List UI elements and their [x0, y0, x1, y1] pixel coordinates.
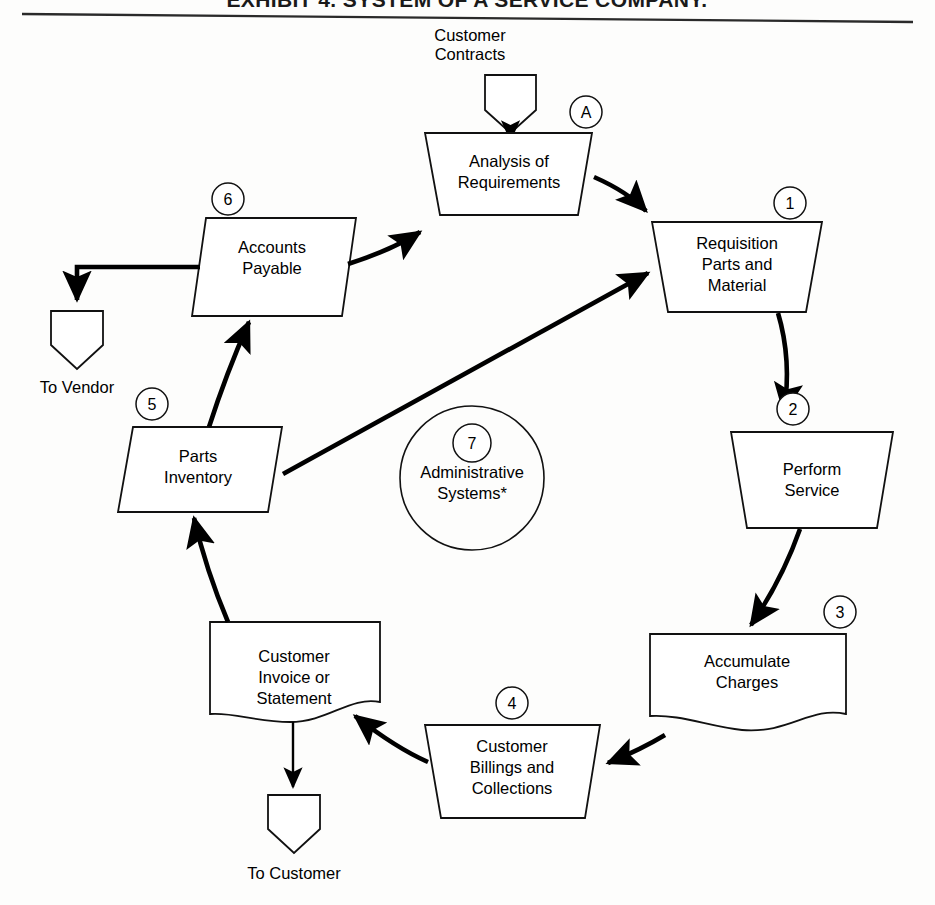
accumulate-charges-label-line1: Accumulate [704, 652, 790, 670]
to-vendor-pentagon-shape [51, 311, 103, 369]
to-vendor-label: To Vendor [40, 378, 115, 396]
edge-parts-inventory-to-accounts-payable [209, 322, 249, 427]
node-accumulate-charges[interactable]: Accumulate Charges [650, 634, 846, 730]
node-parts-inventory[interactable]: Parts Inventory [118, 427, 282, 512]
edge-accumulate-charges-to-billings [608, 735, 665, 763]
node-perform-service[interactable]: Perform Service [731, 432, 893, 528]
edge-perform-service-to-accumulate-charges [751, 529, 800, 625]
administrative-systems-label-line1: Administrative [420, 463, 524, 481]
to-customer-label: To Customer [247, 864, 341, 882]
badge-accounts-payable: 6 [212, 183, 244, 215]
accounts-payable-label-line2: Payable [242, 259, 302, 277]
output-to-customer: To Customer [247, 795, 341, 882]
badge-analysis-of-requirements: A [570, 96, 602, 128]
analysis-of-requirements-label-line2: Requirements [458, 173, 561, 191]
badge-label-5: 5 [148, 396, 157, 413]
page-title-text: EXHIBIT 4. SYSTEM OF A SERVICE COMPANY. [226, 0, 707, 11]
badge-label-a: A [581, 104, 592, 121]
output-to-vendor: To Vendor [40, 311, 115, 396]
administrative-systems-label-line2: Systems* [437, 484, 507, 502]
badge-customer-billings-and-collections: 4 [496, 687, 528, 719]
badge-label-3: 3 [836, 604, 845, 621]
badge-accumulate-charges: 3 [824, 596, 856, 628]
analysis-of-requirements-label-line1: Analysis of [469, 152, 549, 170]
service-company-flow-diagram: EXHIBIT 4. SYSTEM OF A SERVICE COMPANY. … [0, 0, 935, 905]
badge-label-6: 6 [224, 191, 233, 208]
edge-invoice-to-parts-inventory [194, 518, 228, 622]
diagram-page: EXHIBIT 4. SYSTEM OF A SERVICE COMPANY. … [0, 0, 935, 905]
invoice-label-line2: Invoice or [258, 668, 330, 686]
node-accounts-payable[interactable]: Accounts Payable [192, 218, 356, 316]
input-customer-contracts: Customer Contracts [434, 26, 536, 133]
node-analysis-of-requirements[interactable]: Analysis of Requirements [425, 133, 592, 215]
perform-service-label-line2: Service [784, 481, 839, 499]
customer-contracts-label-line2: Contracts [435, 45, 506, 63]
title-rule [22, 14, 913, 22]
perform-service-label-line1: Perform [783, 460, 842, 478]
page-title: EXHIBIT 4. SYSTEM OF A SERVICE COMPANY. [226, 0, 707, 11]
parts-inventory-label-line2: Inventory [164, 468, 233, 486]
badge-label-1: 1 [786, 195, 795, 212]
badge-label-4: 4 [508, 695, 517, 712]
billings-label-line3: Collections [472, 779, 553, 797]
badge-requisition-parts-and-material: 1 [774, 187, 806, 219]
requisition-label-line2: Parts and [702, 255, 773, 273]
customer-contracts-pentagon-shape [485, 75, 536, 133]
billings-label-line1: Customer [476, 737, 548, 755]
badge-perform-service: 2 [777, 393, 809, 425]
requisition-label-line1: Requisition [696, 234, 778, 252]
accumulate-charges-label-line2: Charges [716, 673, 778, 691]
node-customer-billings-and-collections[interactable]: Customer Billings and Collections [425, 725, 600, 818]
badge-label-2: 2 [789, 401, 798, 418]
edge-analysis-to-requisition [594, 177, 646, 211]
badge-label-7: 7 [468, 435, 477, 452]
node-customer-invoice-or-statement[interactable]: Customer Invoice or Statement [210, 622, 380, 722]
edge-accounts-payable-to-vendor [77, 267, 200, 300]
parts-inventory-label-line1: Parts [179, 447, 218, 465]
customer-contracts-label-line1: Customer [434, 26, 506, 44]
requisition-label-line3: Material [708, 276, 767, 294]
invoice-label-line1: Customer [258, 647, 330, 665]
to-customer-pentagon-shape [268, 795, 320, 853]
billings-label-line2: Billings and [470, 758, 554, 776]
node-requisition-parts-and-material[interactable]: Requisition Parts and Material [652, 222, 822, 312]
invoice-label-line3: Statement [256, 689, 332, 707]
perform-service-trapezoid-shape [731, 432, 893, 528]
edge-accounts-payable-to-analysis [348, 232, 420, 264]
badge-parts-inventory: 5 [136, 388, 168, 420]
badge-administrative-systems: 7 [453, 424, 491, 462]
edge-billings-to-invoice [355, 716, 428, 762]
accounts-payable-label-line1: Accounts [238, 238, 306, 256]
